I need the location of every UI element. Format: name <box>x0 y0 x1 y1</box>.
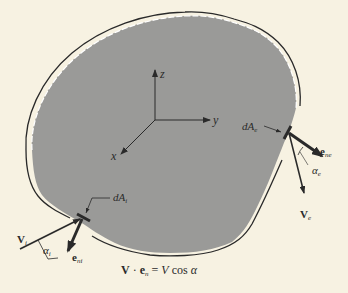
outlet-angle-arc <box>298 147 303 155</box>
inlet-velocity-label: Vi <box>17 234 27 247</box>
outlet-velocity-label: Ve <box>300 209 311 222</box>
equation: V · en = V cos α <box>121 264 197 278</box>
outlet-normal-label: ene <box>320 146 332 159</box>
outlet-angle-leader <box>300 152 308 165</box>
control-volume-diagram <box>0 0 348 293</box>
y-axis-label: y <box>213 114 218 126</box>
inlet-area-label: dAi <box>113 192 127 205</box>
outlet-area-label: dAe <box>242 121 257 134</box>
x-axis-label: x <box>111 150 116 162</box>
z-axis-label: z <box>160 68 165 80</box>
inlet-angle-label: αi <box>43 245 51 258</box>
control-volume-region <box>32 16 296 253</box>
outlet-angle-label: αe <box>312 165 321 178</box>
inlet-normal-label: eni <box>72 252 82 265</box>
